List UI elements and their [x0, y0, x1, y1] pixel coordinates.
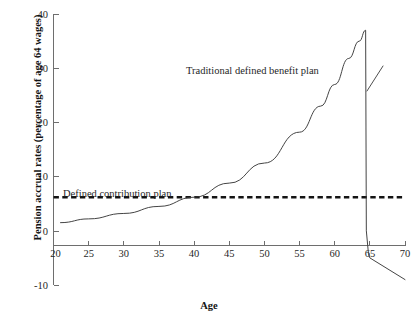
x-axis: 20 25 30 35 40 45 50 55 60 65 70 [50, 241, 410, 260]
x-tick-label-50: 50 [259, 248, 270, 259]
x-tick-label-70: 70 [400, 248, 411, 259]
x-tick-label-25: 25 [83, 248, 94, 259]
x-tick-label-35: 35 [154, 248, 165, 259]
x-tick-label-20: 20 [50, 248, 61, 259]
x-tick-label-45: 45 [224, 248, 235, 259]
x-axis-title: Age [0, 300, 418, 311]
annotation-traditional-defined-benefit-plan: Traditional defined benefit plan [186, 66, 319, 77]
x-tick-label-55: 55 [294, 248, 305, 259]
pension-accrual-chart: 40 30 20 10 0 -10 20 25 30 35 40 45 [0, 0, 418, 320]
x-tick-label-60: 60 [330, 248, 341, 259]
y-axis-title: Pension accrual rates (percentage of age… [32, 3, 43, 253]
x-tick-label-30: 30 [119, 248, 130, 259]
annotation-defined-contribution-plan: Defined contribution plan [63, 189, 171, 200]
annotation-leader-line-db [367, 66, 383, 91]
y-tick-label-0: 0 [43, 226, 48, 237]
y-tick-label-minus10: -10 [34, 280, 48, 291]
x-tick-label-40: 40 [189, 248, 200, 259]
chart-plot-area: 40 30 20 10 0 -10 20 25 30 35 40 45 [0, 0, 418, 320]
